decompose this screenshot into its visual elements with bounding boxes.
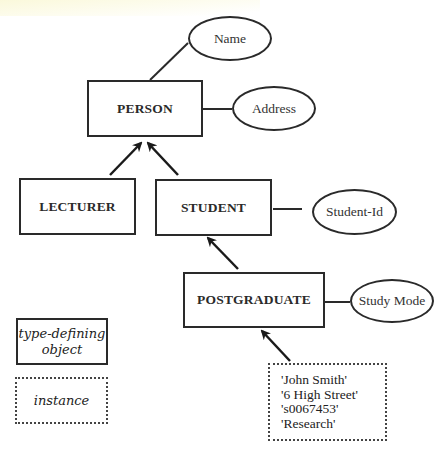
instance-value-study-mode: 'Research': [281, 417, 385, 432]
instance-value-name: 'John Smith': [281, 373, 385, 388]
postgraduate-box: POSTGRADUATE: [183, 272, 325, 328]
address-attribute-label: Address: [252, 101, 296, 117]
address-attribute: Address: [232, 86, 316, 131]
legend-type-defining-line2: object: [42, 342, 82, 358]
postgraduate-instance: 'John Smith' '6 High Street' 's0067453' …: [268, 363, 387, 441]
student-to-person-arrow: [148, 143, 178, 175]
instance-to-postgraduate-arrow: [262, 331, 290, 361]
postgraduate-to-student-arrow: [208, 238, 238, 269]
name-attribute: Name: [188, 16, 272, 61]
instance-value-student-id: 's0067453': [281, 402, 385, 417]
legend-instance: instance: [15, 377, 108, 424]
instance-value-address: '6 High Street': [281, 388, 385, 403]
student-box: STUDENT: [155, 179, 272, 236]
person-box: PERSON: [87, 80, 203, 137]
lecturer-label: LECTURER: [39, 199, 116, 215]
postgraduate-label: POSTGRADUATE: [197, 292, 311, 308]
name-connector: [150, 43, 188, 80]
study-mode-attribute: Study Mode: [350, 279, 434, 323]
legend-instance-label: instance: [34, 393, 90, 409]
student-label: STUDENT: [181, 200, 246, 216]
legend-type-defining-line1: type-defining: [19, 326, 106, 342]
legend-type-defining: type-defining object: [16, 318, 108, 365]
student-id-attribute-label: Student-Id: [326, 204, 383, 220]
lecturer-to-person-arrow: [110, 143, 141, 175]
person-label: PERSON: [117, 101, 173, 117]
lecturer-box: LECTURER: [19, 178, 136, 235]
study-mode-attribute-label: Study Mode: [359, 293, 425, 309]
name-attribute-label: Name: [214, 31, 246, 47]
student-id-attribute: Student-Id: [312, 189, 397, 235]
